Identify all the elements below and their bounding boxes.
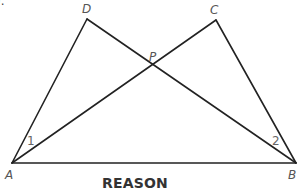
- segment-CB: [216, 20, 296, 163]
- reason-heading: REASON: [0, 175, 270, 191]
- segment-DB: [87, 19, 296, 163]
- point-label-C: C: [210, 3, 219, 17]
- point-label-P: P: [149, 50, 157, 64]
- point-label-B: B: [288, 168, 296, 182]
- angle-label-1: 1: [27, 134, 35, 148]
- segment-AD: [12, 19, 87, 163]
- angle-label-2: 2: [272, 134, 280, 148]
- segment-AC: [12, 20, 216, 163]
- geometry-diagram: D C P A B 1 2: [0, 0, 299, 192]
- point-label-D: D: [82, 2, 91, 16]
